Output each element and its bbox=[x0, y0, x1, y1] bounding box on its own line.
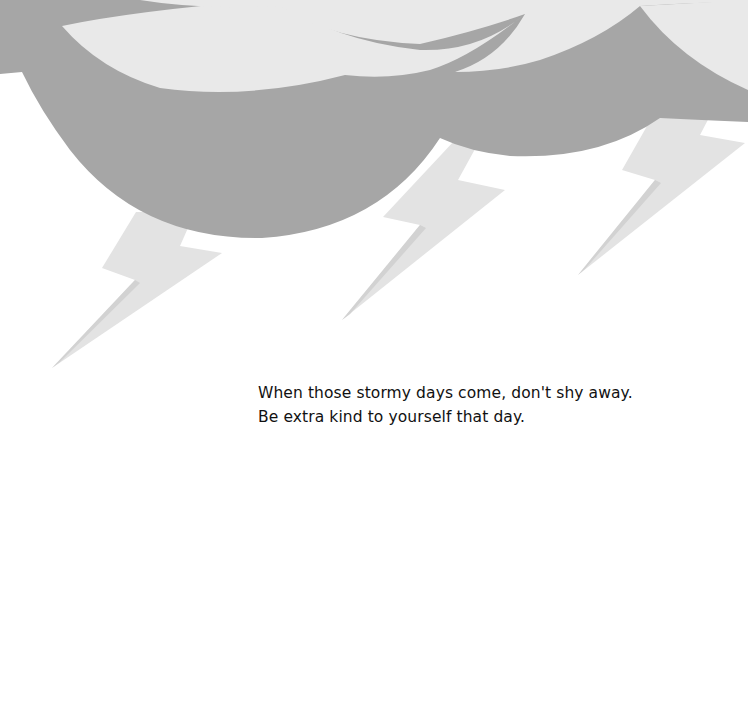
story-caption: When those stormy days come, don't shy a… bbox=[258, 381, 633, 429]
caption-line-2: Be extra kind to yourself that day. bbox=[258, 405, 633, 429]
caption-line-1: When those stormy days come, don't shy a… bbox=[258, 381, 633, 405]
lightning-bolt-1-icon bbox=[52, 212, 222, 368]
storm-illustration bbox=[0, 0, 748, 701]
storm-cloud-icon bbox=[0, 0, 748, 238]
